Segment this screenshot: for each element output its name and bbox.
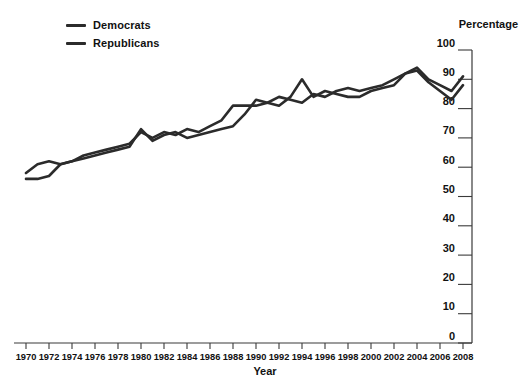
x-tick-label: 2000 bbox=[361, 352, 382, 362]
y-tick-label: 60 bbox=[443, 154, 455, 166]
x-tick-label: 2006 bbox=[430, 352, 451, 362]
y-tick-label: 20 bbox=[443, 271, 455, 283]
x-tick-label: 1980 bbox=[131, 352, 152, 362]
x-tick-label: 1990 bbox=[246, 352, 267, 362]
x-tick-label: 1986 bbox=[200, 352, 221, 362]
x-axis-ticks: 1970197219741976197819801982198419861988… bbox=[16, 343, 474, 362]
x-tick-label: 1996 bbox=[315, 352, 336, 362]
series-line-republicans bbox=[26, 71, 463, 179]
y-tick-label: 40 bbox=[443, 212, 455, 224]
x-tick-label: 1976 bbox=[85, 352, 106, 362]
x-tick-label: 2004 bbox=[407, 352, 429, 362]
y-tick-label: 70 bbox=[443, 124, 455, 136]
x-tick-label: 2008 bbox=[453, 352, 474, 362]
x-tick-label: 1998 bbox=[338, 352, 359, 362]
plot-area: 0102030405060708090100 19701972197419761… bbox=[0, 0, 530, 382]
y-tick-label: 100 bbox=[437, 37, 455, 49]
x-tick-label: 1992 bbox=[269, 352, 290, 362]
x-tick-label: 1974 bbox=[62, 352, 84, 362]
y-axis-ticks: 0102030405060708090100 bbox=[437, 37, 472, 344]
x-tick-label: 2002 bbox=[384, 352, 405, 362]
x-tick-label: 1984 bbox=[177, 352, 199, 362]
x-tick-label: 1994 bbox=[292, 352, 314, 362]
y-tick-label: 30 bbox=[443, 242, 455, 254]
x-tick-label: 1970 bbox=[16, 352, 37, 362]
x-tick-label: 1982 bbox=[154, 352, 175, 362]
x-tick-label: 1978 bbox=[108, 352, 129, 362]
y-tick-label: 0 bbox=[449, 330, 455, 342]
x-tick-label: 1988 bbox=[223, 352, 244, 362]
y-tick-label: 50 bbox=[443, 183, 455, 195]
chart-container: Democrats Republicans Percentage Year 01… bbox=[0, 0, 530, 382]
y-tick-label: 10 bbox=[443, 300, 455, 312]
y-tick-label: 90 bbox=[443, 66, 455, 78]
x-tick-label: 1972 bbox=[39, 352, 60, 362]
data-series-group bbox=[26, 68, 463, 179]
